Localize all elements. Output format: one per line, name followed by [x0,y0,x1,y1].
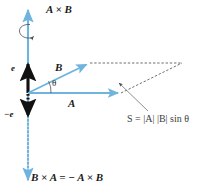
label-vector-b: B [55,62,62,73]
label-vector-a: A [68,98,75,109]
parallelogram-dashed-diagonal [121,63,182,93]
label-angle-theta: θ [52,79,56,88]
label-a-cross-b-top-text: A × B [46,3,72,15]
label-a-cross-b-top: A × B [46,4,72,15]
label-unit-vector-e: e [11,64,15,73]
vector-cross-product-diagram [0,0,224,196]
label-b-cross-a-equals-neg-a-cross-b: B × A = − A × B [31,172,103,183]
rotation-indicator-arrowhead-icon [30,36,34,38]
label-area-formula: S = |A| |B| sin θ [127,114,189,124]
label-unit-vector-neg-e: −e [4,110,13,119]
